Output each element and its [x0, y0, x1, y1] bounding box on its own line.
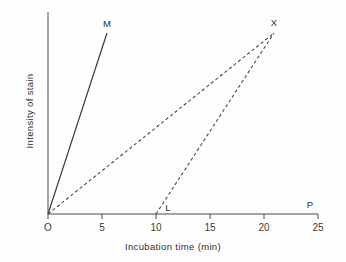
curve-label-p: P — [307, 199, 313, 210]
curve-label-m: M — [103, 18, 111, 29]
curve-label-l: L — [165, 202, 170, 213]
x-axis-title: Incubation time (min) — [0, 242, 346, 252]
series-line-m — [48, 33, 107, 214]
chart-plot-area: O 5 10 15 20 25 M X L P — [0, 0, 346, 262]
y-axis-title-wrapper: Intensity of stain — [19, 31, 37, 191]
x-tick-label-10: 10 — [150, 222, 162, 233]
x-tick-label-20: 20 — [258, 222, 270, 233]
series-line-ox — [48, 33, 274, 214]
y-axis-title: Intensity of stain — [24, 74, 35, 149]
chart-figure: O 5 10 15 20 25 M X L P Incubation time … — [0, 0, 346, 262]
curve-label-x: X — [271, 17, 278, 28]
x-tick-label-25: 25 — [312, 222, 324, 233]
x-tick-label-0: O — [44, 222, 52, 233]
series-line-lx — [156, 33, 274, 214]
x-tick-label-5: 5 — [99, 222, 105, 233]
x-tick-label-15: 15 — [204, 222, 216, 233]
